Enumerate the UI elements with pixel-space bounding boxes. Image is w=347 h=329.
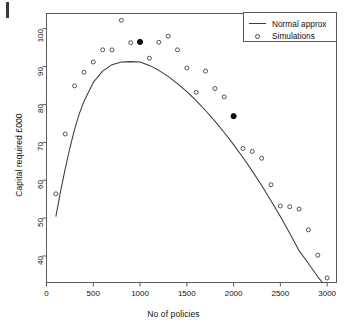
simulation-point [269,183,273,187]
simulation-point [288,205,292,209]
simulation-point [278,204,282,208]
simulation-point [194,90,198,94]
simulation-point [82,70,86,74]
y-tick-label-90: 90 [35,67,44,76]
simulation-point [119,18,123,22]
chart-legend: Normal approx Simulations [243,12,337,42]
simulation-point [175,48,179,52]
legend-circle-key [248,31,267,41]
simulation-point [306,228,310,232]
x-tick-label-1500: 1500 [178,289,196,298]
simulation-point [63,132,67,136]
x-tick-label-3000: 3000 [318,289,336,298]
y-tick-label-40: 40 [35,256,44,265]
simulation-point [91,60,95,64]
simulation-point [147,56,151,60]
y-tick-label-70: 70 [35,142,44,151]
simulation-point [241,146,245,150]
simulation-point [316,253,320,257]
simulation-point [129,41,133,45]
simulation-point [250,149,254,153]
y-axis-title: Capital required £000 [14,75,24,235]
x-axis-title: No of policies [0,309,347,319]
x-tick-label-0: 0 [44,289,48,298]
simulation-point [325,276,329,280]
simulation-point-highlighted [137,39,142,44]
simulation-point [54,192,58,196]
y-tick-label-100: 100 [35,29,44,42]
simulation-point [101,48,105,52]
simulation-point [166,34,170,38]
simulation-point [185,66,189,70]
x-tick-label-1000: 1000 [131,289,149,298]
simulation-point [213,87,217,91]
x-tick-label-2000: 2000 [225,289,243,298]
x-tick-label-500: 500 [87,289,100,298]
legend-label-simulations: Simulations [272,31,315,41]
y-tick-label-80: 80 [35,104,44,113]
simulation-point [222,95,226,99]
x-axis-ticks [47,283,328,287]
normal-approx-curve [56,62,323,283]
simulation-point [73,84,77,88]
plot-frame [47,14,337,283]
simulation-point [204,69,208,73]
y-tick-label-60: 60 [35,180,44,189]
legend-label-normal-approx: Normal approx [272,19,326,29]
simulation-point [157,40,161,44]
y-tick-label-50: 50 [35,218,44,227]
plot-canvas [0,0,347,329]
chart-figure: 050010001500200025003000 405060708090100… [0,0,347,329]
legend-line-key [248,19,267,29]
x-tick-label-2500: 2500 [271,289,289,298]
simulation-point-highlighted [231,114,236,119]
simulation-point [260,156,264,160]
simulation-points-group [54,18,329,280]
simulation-point [110,48,114,52]
legend-item-simulations: Simulations [248,29,315,42]
simulation-point [297,207,301,211]
